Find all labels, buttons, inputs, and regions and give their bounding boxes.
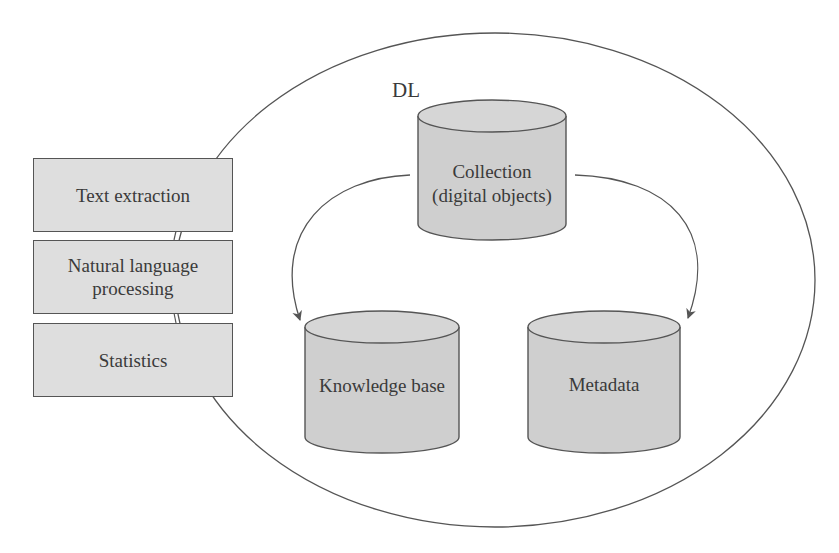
dl-label: DL — [392, 78, 420, 103]
text-extraction-box: Text extraction — [33, 158, 233, 232]
arrow-to-knowledge-base — [292, 175, 410, 320]
nlp-label: Natural language processing — [48, 254, 218, 300]
statistics-box: Statistics — [33, 323, 233, 397]
statistics-label: Statistics — [99, 349, 168, 372]
arrow-to-metadata — [575, 175, 698, 318]
box-connector — [174, 313, 176, 323]
text-extraction-label: Text extraction — [76, 184, 190, 207]
box-connector — [174, 231, 176, 240]
nlp-box: Natural language processing — [33, 240, 233, 314]
metadata-label: Metadata — [538, 370, 670, 400]
knowledge-base-label: Knowledge base — [315, 356, 449, 416]
collection-label: Collection (digital objects) — [430, 140, 554, 228]
